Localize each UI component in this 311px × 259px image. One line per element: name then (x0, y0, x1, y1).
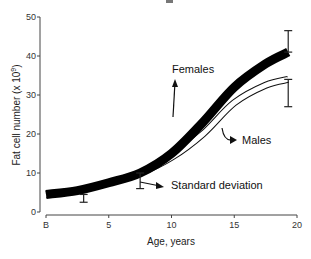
y-tick-label: 50 (26, 12, 36, 22)
females-label: Females (172, 63, 215, 75)
males-label: Males (242, 134, 272, 146)
annotation-females: Females (172, 63, 215, 117)
x-tick-label: B (43, 220, 49, 230)
annotation-standard-deviation: Standard deviation (140, 179, 263, 191)
y-tick-label: 10 (26, 168, 36, 178)
standard-deviation-label: Standard deviation (171, 179, 263, 191)
x-tick-label: 5 (106, 220, 111, 230)
annotation-males: Males (222, 128, 272, 146)
error-bars (80, 31, 293, 203)
x-axis-title: Age, years (147, 236, 195, 247)
x-tick-label: 20 (292, 220, 302, 230)
title-fragment (166, 0, 173, 3)
x-tick-label: 15 (229, 220, 239, 230)
females-series (46, 52, 288, 194)
y-axis-title: Fat cell number (x 109) (10, 64, 22, 165)
y-tick-label: 0 (31, 207, 36, 217)
y-tick-label: 30 (26, 90, 36, 100)
x-axis: B5101520 Age, years (43, 215, 302, 247)
x-tick-label: 10 (166, 220, 176, 230)
chart: 01020304050 Fat cell number (x 109) B510… (0, 0, 311, 259)
y-tick-label: 20 (26, 129, 36, 139)
y-tick-label: 40 (26, 51, 36, 61)
y-axis: 01020304050 Fat cell number (x 109) (10, 12, 40, 217)
